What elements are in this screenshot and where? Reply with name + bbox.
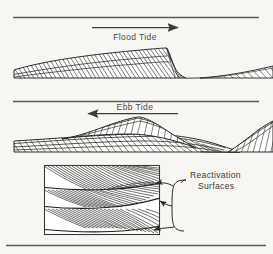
- tidal-sandwave-figure: Flood Tide: [0, 0, 273, 254]
- reactivation-label-line2: Surfaces: [198, 181, 234, 191]
- ebb-tide-label: Ebb Tide: [117, 102, 154, 112]
- reactivation-label-line1: Reactivation: [190, 170, 241, 180]
- flood-tide-label: Flood Tide: [113, 32, 157, 42]
